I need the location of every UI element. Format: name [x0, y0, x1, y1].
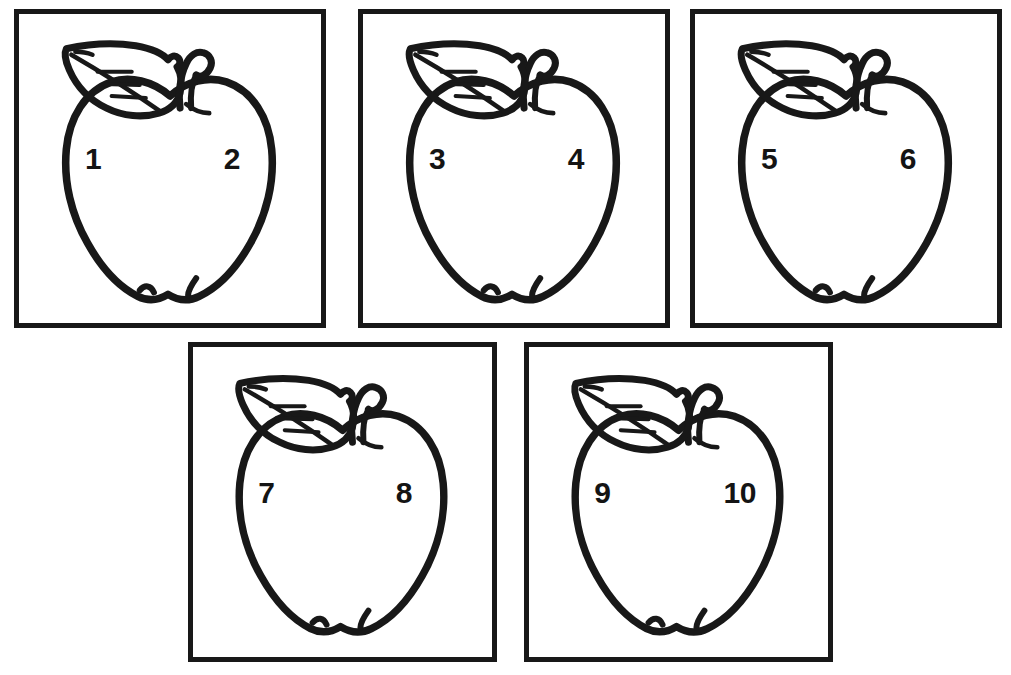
worksheet-canvas: 12345678910	[0, 0, 1011, 675]
apple-card[interactable]: 56	[690, 9, 1002, 328]
apple-stem-base-tick	[358, 438, 381, 447]
apple-leaf-tip-mark	[585, 386, 602, 389]
apple-number-right: 6	[900, 144, 916, 174]
apple-bottom-notch-right	[864, 278, 872, 295]
apple-bottom-notch-right	[532, 278, 540, 295]
apple-drawing	[529, 347, 828, 657]
apple-stem-inner-path	[535, 75, 540, 108]
apple-stem-base-tick	[530, 104, 553, 113]
apple-drawing	[19, 14, 321, 323]
apple-bottom-notch-left	[649, 619, 663, 625]
apple-card[interactable]: 12	[14, 9, 326, 328]
apple-number-left: 5	[761, 144, 777, 174]
apple-bottom-notch-left	[313, 619, 327, 625]
apple-stem-base-tick	[694, 438, 717, 447]
apple-leaf-vein-3	[112, 96, 146, 98]
apple-illustration	[193, 347, 492, 657]
apple-leaf-vein-2	[104, 84, 140, 85]
apple-leaf-vein-2	[448, 84, 484, 85]
apple-bottom-notch-right	[360, 611, 368, 628]
apple-card[interactable]: 78	[188, 342, 497, 662]
apple-drawing	[695, 14, 997, 323]
apple-leaf-vein-2	[613, 418, 649, 419]
apple-card[interactable]: 34	[358, 9, 670, 328]
apple-leaf-tip-mark	[419, 52, 436, 55]
apple-drawing	[193, 347, 492, 657]
apple-stem-inner-path	[191, 75, 196, 108]
apple-leaf-vein-3	[621, 430, 655, 432]
apple-card[interactable]: 910	[524, 342, 833, 662]
apple-illustration	[695, 14, 997, 323]
apple-leaf-vein-3	[285, 430, 319, 432]
apple-bottom-notch-left	[816, 286, 830, 292]
apple-number-left: 7	[258, 478, 274, 508]
apple-drawing	[363, 14, 665, 323]
apple-number-right: 8	[396, 478, 412, 508]
apple-number-left: 1	[85, 144, 101, 174]
apple-bottom-notch-right	[696, 611, 704, 628]
apple-leaf-vein-3	[456, 96, 490, 98]
apple-stem-inner-path	[363, 409, 368, 442]
apple-number-right: 4	[568, 144, 584, 174]
apple-leaf-tip-mark	[249, 386, 266, 389]
apple-leaf-vein-2	[780, 84, 816, 85]
apple-bottom-notch-right	[188, 278, 196, 295]
apple-stem-base-tick	[186, 104, 209, 113]
apple-stem-inner-path	[867, 75, 872, 108]
apple-leaf-tip-mark	[751, 52, 768, 55]
apple-illustration	[19, 14, 321, 323]
apple-stem-base-tick	[862, 104, 885, 113]
apple-stem-inner-path	[699, 409, 704, 442]
apple-bottom-notch-left	[484, 286, 498, 292]
apple-number-right: 2	[224, 144, 240, 174]
apple-number-left: 9	[594, 478, 610, 508]
apple-leaf-tip-mark	[75, 52, 92, 55]
apple-bottom-notch-left	[140, 286, 154, 292]
apple-number-left: 3	[429, 144, 445, 174]
apple-leaf-vein-2	[277, 418, 313, 419]
apple-leaf-vein-3	[788, 96, 822, 98]
apple-illustration	[363, 14, 665, 323]
apple-number-right: 10	[724, 478, 756, 508]
apple-illustration	[529, 347, 828, 657]
